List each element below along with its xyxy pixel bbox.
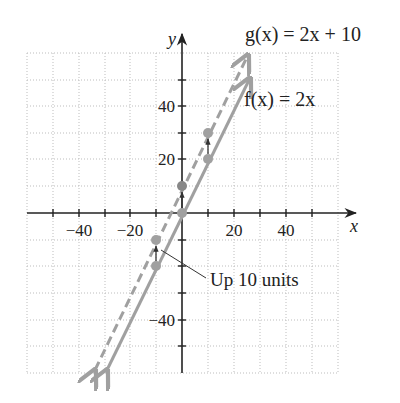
g-point [151,235,161,245]
x-tick-label: 20 [226,221,243,240]
y-tick-label: −40 [148,311,175,330]
f-point [203,154,213,164]
annotation-label: Up 10 units [210,269,299,290]
x-axis-label: x [349,216,358,236]
g-function-label: g(x) = 2x + 10 [245,23,361,46]
axes [27,34,356,373]
g-point [203,128,213,138]
f-function-label: f(x) = 2x [244,88,315,111]
coordinate-plane: −40 −20 20 40 40 20 −40 x y Up 10 units … [0,0,400,403]
x-tick-label: −40 [66,221,93,240]
y-tick-label: 40 [158,97,175,116]
f-point [177,208,187,218]
g-point [177,181,187,191]
x-tick-label: −20 [117,221,144,240]
f-point [151,261,161,271]
y-axis-label: y [166,29,176,49]
x-tick-label: 40 [278,221,295,240]
annotation-leader [161,250,206,278]
y-tick-label: 20 [158,150,175,169]
